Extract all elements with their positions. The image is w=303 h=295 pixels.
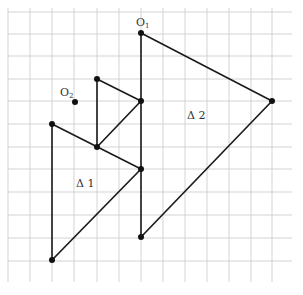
label-o1: O1 <box>136 16 150 30</box>
vertex-s-top <box>94 76 100 82</box>
triangle-2 <box>141 33 272 237</box>
shapes <box>52 33 272 260</box>
label-delta-2: Δ 2 <box>187 109 205 122</box>
vertex-o1 <box>138 30 144 36</box>
vertex-s-bottom <box>94 144 100 150</box>
vertex-t2-right <box>269 98 275 104</box>
vertex-s-right <box>138 98 144 104</box>
vertex-t1-bottom <box>49 257 55 263</box>
vertex-t1-right <box>138 166 144 172</box>
labels: O1 O2 Δ 1 Δ 2 <box>60 16 205 190</box>
diagram-canvas: O1 O2 Δ 1 Δ 2 <box>0 0 303 295</box>
diagram-svg: O1 O2 Δ 1 Δ 2 <box>0 0 303 295</box>
vertex-t1-top <box>49 121 55 127</box>
label-o2: O2 <box>60 86 74 100</box>
grid <box>8 8 292 282</box>
label-delta-1: Δ 1 <box>76 177 94 190</box>
vertex-t2-bottom <box>138 234 144 240</box>
